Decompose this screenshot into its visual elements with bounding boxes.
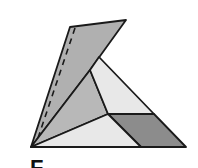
- diagram-svg: [0, 0, 198, 168]
- faces-group: [31, 20, 186, 147]
- fold-diagram: F: [0, 0, 198, 168]
- figure-label: F: [30, 157, 43, 168]
